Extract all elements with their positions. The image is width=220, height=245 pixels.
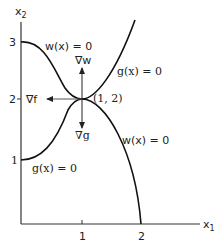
g-curve-upper-label: g(x) = 0 [117, 65, 162, 78]
g-curve-lower-label: g(x) = 0 [32, 162, 77, 175]
x-tick-label-2: 2 [138, 230, 145, 243]
y-tick-label-2: 2 [9, 93, 16, 106]
point-label: (1, 2) [93, 92, 123, 105]
grad-g-label: ∇g [75, 129, 90, 142]
y-tick-label-3: 3 [9, 36, 16, 49]
grad-f-label: ∇f [25, 93, 38, 106]
w-curve-lower-label: w(x) = 0 [122, 134, 169, 147]
y-axis-label: x2 [15, 5, 27, 20]
grad-w-label: ∇w [74, 54, 91, 67]
x-axis-label: x1 [203, 218, 215, 233]
constraint-diagram: x2 x1 3 2 1 1 2 w(x) = 0 g(x) = 0 g(x) =… [0, 0, 220, 245]
y-tick-label-1: 1 [11, 154, 18, 167]
w-curve-upper-label: w(x) = 0 [45, 40, 92, 53]
x-tick-label-1: 1 [79, 230, 86, 243]
